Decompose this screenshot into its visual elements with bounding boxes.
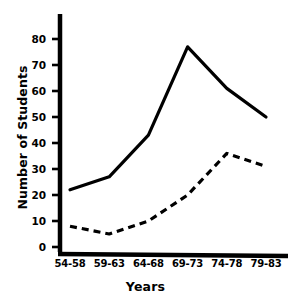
x-tick-69-73: 69-73 xyxy=(172,258,203,269)
x-tick-74-78: 74-78 xyxy=(211,258,242,269)
x-tick-59-63: 59-63 xyxy=(94,258,125,269)
line-chart: Number of Students 80706050403020100 54-… xyxy=(0,0,291,300)
x-tick-79-83: 79-83 xyxy=(251,258,282,269)
series-line-solid xyxy=(70,47,266,190)
x-axis-title: Years xyxy=(0,279,291,294)
series-line-dashed xyxy=(70,153,266,234)
x-tick-54-58: 54-58 xyxy=(55,258,86,269)
plot-area xyxy=(0,0,291,300)
x-axis-line xyxy=(58,254,288,256)
x-tick-64-68: 64-68 xyxy=(133,258,164,269)
